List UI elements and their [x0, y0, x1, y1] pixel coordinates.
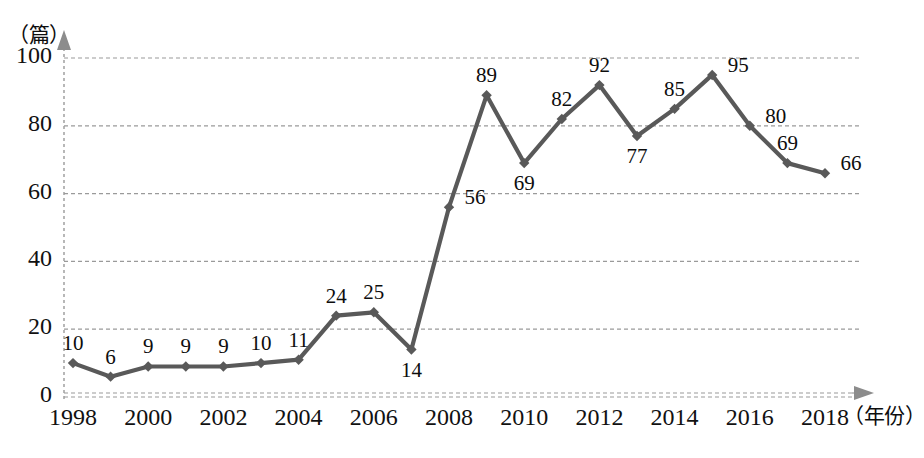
data-point-label: 92	[589, 53, 610, 78]
y-tick-label: 80	[0, 110, 52, 137]
x-tick-label: 2010	[500, 404, 548, 431]
y-tick-label: 60	[0, 178, 52, 205]
y-tick-label: 100	[0, 42, 52, 69]
data-point-label: 14	[401, 358, 422, 383]
x-tick-label: 2004	[275, 404, 323, 431]
data-point-label: 6	[105, 345, 116, 370]
x-tick-label: 2012	[575, 404, 623, 431]
x-tick-label: 2016	[726, 404, 774, 431]
series-line	[73, 75, 825, 377]
data-point-marker	[68, 358, 78, 368]
data-series	[73, 75, 825, 377]
data-point-marker	[218, 361, 228, 371]
data-point-marker	[444, 202, 454, 212]
x-tick-label: 2000	[124, 404, 172, 431]
chart-canvas	[0, 0, 924, 458]
data-point-marker	[181, 361, 191, 371]
data-point-marker	[820, 168, 830, 178]
data-point-label: 69	[777, 131, 798, 156]
y-tick-label: 20	[0, 313, 52, 340]
data-point-label: 89	[476, 63, 497, 88]
data-point-label: 69	[514, 171, 535, 196]
data-point-marker	[256, 358, 266, 368]
data-point-label: 24	[326, 284, 347, 309]
data-point-marker	[105, 371, 115, 381]
x-tick-label: 2008	[425, 404, 473, 431]
data-point-label: 77	[627, 144, 648, 169]
data-point-label: 25	[363, 280, 384, 305]
y-tick-label: 40	[0, 245, 52, 272]
data-point-label: 95	[728, 53, 749, 78]
data-point-label: 9	[218, 334, 229, 359]
data-point-label: 56	[465, 185, 486, 210]
data-point-label: 80	[765, 104, 786, 129]
x-tick-label: 1998	[49, 404, 97, 431]
data-point-label: 82	[551, 87, 572, 112]
x-tick-label: 2002	[199, 404, 247, 431]
data-point-label: 10	[63, 331, 84, 356]
x-tick-label: 2006	[350, 404, 398, 431]
data-point-label: 10	[251, 331, 272, 356]
x-axis-unit-label: （年份）	[843, 399, 924, 429]
x-axis-arrow-icon	[854, 386, 874, 400]
x-tick-label: 2014	[651, 404, 699, 431]
data-point-marker	[143, 361, 153, 371]
line-chart: （篇） （年份） 020406080100 199820002002200420…	[0, 0, 924, 458]
data-point-label: 85	[664, 77, 685, 102]
x-tick-label: 2018	[801, 404, 849, 431]
data-point-label: 66	[841, 151, 862, 176]
data-point-label: 11	[288, 328, 308, 353]
y-tick-label: 0	[0, 381, 52, 408]
data-point-label: 9	[143, 334, 154, 359]
axis-lines	[57, 30, 874, 400]
data-point-label: 9	[181, 334, 192, 359]
